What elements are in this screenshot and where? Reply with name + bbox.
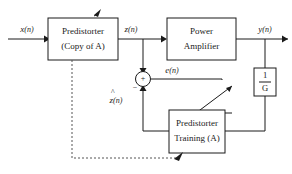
signal-error-index: (n) <box>169 66 179 75</box>
arrowhead-amplifier-input <box>161 36 167 43</box>
block-predistorter-line2: (Copy of A) <box>61 41 105 51</box>
arrowhead-output <box>282 36 288 43</box>
signal-label-input: x(n) <box>19 24 34 34</box>
inverse-gain-denominator: G <box>262 83 268 93</box>
block-predistorter-line1: Predistorter <box>62 26 104 36</box>
block-diagram: Predistorter (Copy of A) Power Amplifier… <box>0 0 292 174</box>
inverse-gain-numerator: 1 <box>263 70 267 80</box>
summing-junction-minus: − <box>133 83 138 92</box>
block-power-amplifier-line2: Amplifier <box>184 41 220 51</box>
block-power-amplifier-line1: Power <box>190 26 213 36</box>
block-predistorter-training-line2: Training (A) <box>174 133 219 143</box>
summing-junction-plus: + <box>141 74 146 83</box>
block-predistorter[interactable] <box>48 18 118 60</box>
block-predistorter-training[interactable] <box>169 110 225 153</box>
signal-predistorted-index: (n) <box>128 25 138 34</box>
adaptation-slash-training <box>196 86 232 113</box>
block-predistorter-training-line1: Predistorter <box>176 118 218 128</box>
block-power-amplifier[interactable] <box>167 18 236 60</box>
signal-output-index: (n) <box>262 25 272 34</box>
signal-z-hat-index: (n) <box>113 96 123 105</box>
diagram-canvas: Predistorter (Copy of A) Power Amplifier… <box>0 0 292 174</box>
signal-input-index: (n) <box>24 25 34 34</box>
arrowhead-adaptation-training <box>226 86 232 92</box>
signal-label-output: y(n) <box>257 24 272 34</box>
wire-coefficient-copy-dashed <box>72 60 176 158</box>
signal-label-error: e(n) <box>165 65 179 75</box>
signal-label-predistorted: z(n) <box>124 24 138 34</box>
